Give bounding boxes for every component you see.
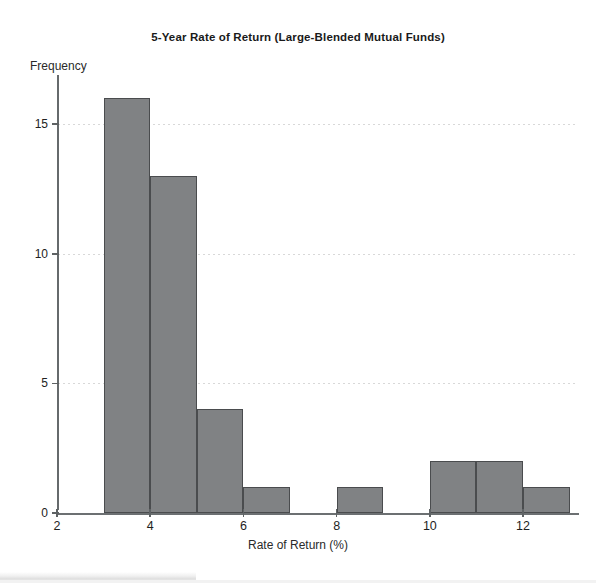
x-tick-label-6: 6: [223, 519, 263, 533]
chart-title: 5-Year Rate of Return (Large-Blended Mut…: [0, 31, 596, 43]
x-tick-label-12: 12: [503, 519, 543, 533]
x-tick-mark-2: [56, 509, 58, 517]
histogram-bar: [150, 176, 197, 513]
y-tick-mark-5: [52, 383, 59, 385]
y-tick-label-10: 10: [8, 247, 48, 261]
y-tick-mark-15: [52, 123, 59, 125]
histogram-bar: [337, 487, 384, 513]
histogram-bar: [243, 487, 290, 513]
x-tick-mark-6: [243, 509, 245, 517]
histogram-bar: [523, 487, 570, 513]
x-tick-mark-10: [429, 509, 431, 517]
x-axis-label: Rate of Return (%): [0, 538, 596, 552]
histogram-chart: 5-Year Rate of Return (Large-Blended Mut…: [0, 0, 596, 585]
y-axis-line: [57, 75, 59, 510]
y-tick-label-0: 0: [8, 506, 48, 520]
plot-area: [57, 75, 579, 508]
x-tick-label-10: 10: [410, 519, 450, 533]
x-tick-label-2: 2: [37, 519, 77, 533]
x-tick-mark-12: [522, 509, 524, 517]
histogram-bar: [476, 461, 523, 513]
y-tick-label-15: 15: [8, 117, 48, 131]
histogram-bar: [104, 98, 151, 513]
x-tick-mark-4: [149, 509, 151, 517]
scan-artifact-edge: [0, 580, 596, 583]
y-axis-label: Frequency: [30, 59, 87, 73]
y-tick-mark-10: [52, 253, 59, 255]
x-axis-line: [57, 513, 579, 515]
y-tick-label-5: 5: [8, 376, 48, 390]
histogram-bar: [430, 461, 477, 513]
x-tick-label-8: 8: [317, 519, 357, 533]
histogram-bar: [197, 409, 244, 513]
x-tick-label-4: 4: [130, 519, 170, 533]
x-tick-mark-8: [336, 509, 338, 517]
